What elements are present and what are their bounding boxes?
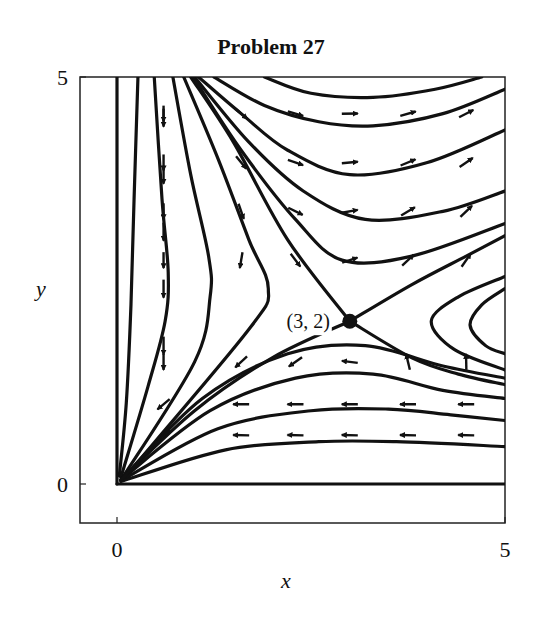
direction-arrow	[401, 159, 416, 165]
direction-arrow	[235, 356, 247, 367]
y-tick-label: 0	[57, 472, 68, 497]
trajectory-right-2	[470, 289, 505, 354]
direction-arrow	[400, 111, 415, 115]
direction-arrow	[289, 357, 302, 366]
direction-arrow	[460, 158, 473, 167]
saddle-point-marker	[342, 314, 357, 329]
direction-arrow	[240, 252, 243, 268]
equilibrium-label: (3, 2)	[286, 310, 329, 333]
direction-field	[157, 106, 474, 440]
trajectory-right-1	[431, 276, 505, 370]
direction-arrow	[235, 108, 247, 118]
trajectory-separatrix-unstable-up	[350, 236, 505, 321]
phase-portrait-plot: (3, 2) 0505 x y	[0, 0, 542, 617]
trajectory-upper-3	[264, 77, 481, 98]
trajectory-separatrix-stable-upper	[191, 77, 350, 321]
direction-arrow	[342, 162, 358, 163]
trajectory-left-1	[119, 77, 138, 476]
equilibrium-point: (3, 2)	[268, 305, 358, 335]
direction-arrow	[288, 160, 303, 165]
trajectory-upper-5	[193, 77, 505, 263]
direction-arrow	[342, 210, 358, 213]
direction-arrow	[459, 110, 473, 117]
trajectories	[117, 77, 505, 484]
x-axis-label: x	[280, 568, 291, 593]
direction-arrow	[401, 207, 415, 215]
x-tick-label: 5	[500, 537, 511, 562]
y-axis-label: y	[34, 276, 46, 301]
x-tick-label: 0	[112, 537, 123, 562]
y-tick-label: 5	[57, 65, 68, 90]
direction-arrow	[342, 361, 358, 363]
